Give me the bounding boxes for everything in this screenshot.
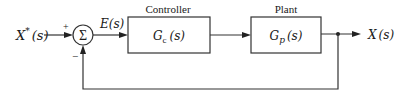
- error-arrowhead-icon: [119, 32, 128, 38]
- plus-sign: +: [63, 21, 69, 32]
- plant-title: Plant: [275, 3, 298, 15]
- input-label: X*(s): [15, 26, 49, 43]
- minus-sign: −: [72, 50, 78, 62]
- error-signal-label: E(s): [99, 17, 125, 31]
- block-diagram: X*(s) + Σ − E(s) Controller Gc(s) Plant …: [0, 0, 407, 95]
- sigma-icon: Σ: [79, 28, 87, 43]
- controller-transfer-function: Gc(s): [153, 29, 185, 45]
- feedback-arrowhead-icon: [80, 45, 86, 54]
- output-label: X(s): [367, 28, 394, 42]
- plant-transfer-function: Gp(s): [270, 29, 303, 45]
- control-arrowhead-icon: [242, 32, 251, 38]
- input-arrowhead-icon: [64, 32, 73, 38]
- controller-title: Controller: [145, 3, 191, 15]
- output-arrowhead-icon: [352, 31, 361, 37]
